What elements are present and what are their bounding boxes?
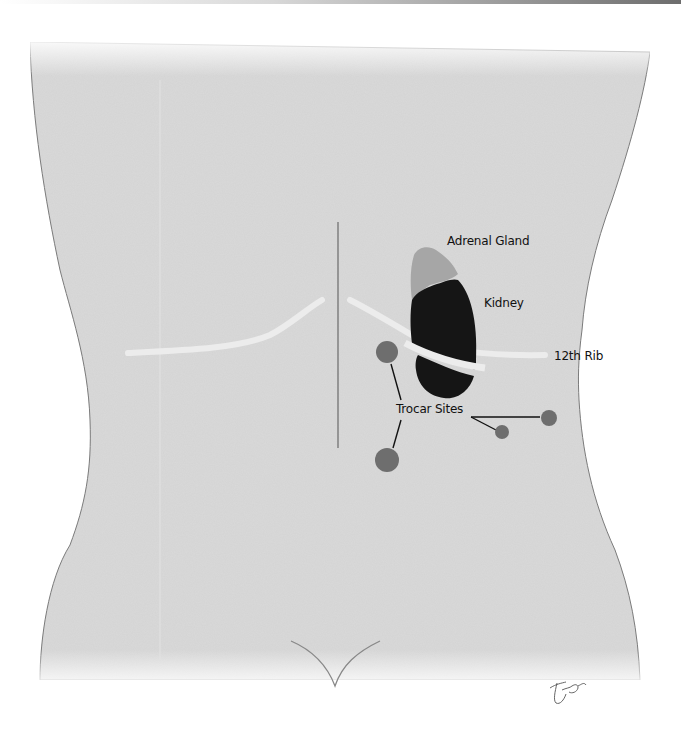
trocar-site-3 xyxy=(495,425,509,439)
trocar-site-2 xyxy=(375,448,399,472)
illustration xyxy=(0,0,681,739)
torso xyxy=(0,36,681,690)
trocar-site-4 xyxy=(541,410,557,426)
rib-label: 12th Rib xyxy=(554,349,603,363)
kidney-label: Kidney xyxy=(484,296,524,310)
trocar-site-1 xyxy=(376,341,398,363)
trocar-sites-label: Trocar Sites xyxy=(396,402,463,416)
adrenal-gland-label: Adrenal Gland xyxy=(447,234,529,248)
